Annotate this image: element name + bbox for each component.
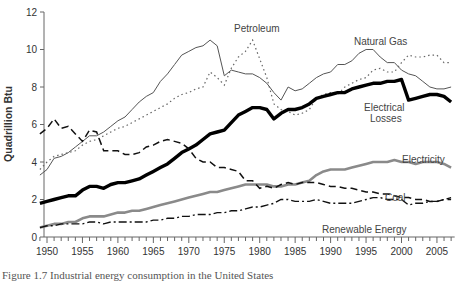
- y-tick-label: 12: [26, 7, 38, 18]
- label-petroleum: Petroleum: [234, 23, 280, 34]
- x-tick-label: 1975: [213, 246, 236, 257]
- label-electrical-losses-2: Losses: [370, 113, 402, 124]
- energy-consumption-chart: 0246810121950195519601965197019751980198…: [0, 0, 468, 283]
- x-tick-label: 1955: [71, 246, 94, 257]
- y-tick-label: 8: [31, 82, 37, 93]
- x-tick-label: 2000: [390, 246, 413, 257]
- y-tick-label: 6: [31, 119, 37, 130]
- x-tick-label: 1985: [284, 246, 307, 257]
- x-tick-label: 1970: [178, 246, 201, 257]
- y-tick-label: 4: [31, 157, 37, 168]
- y-tick-label: 2: [31, 194, 37, 205]
- x-tick-label: 1950: [36, 246, 59, 257]
- x-tick-label: 1960: [107, 246, 130, 257]
- x-tick-label: 1990: [319, 246, 342, 257]
- x-tick-label: 1995: [355, 246, 378, 257]
- x-tick-label: 1980: [249, 246, 272, 257]
- figure-caption: Figure 1.7 Industrial energy consumption…: [2, 269, 273, 281]
- y-tick-label: 10: [26, 44, 38, 55]
- label-renewable-energy: Renewable Energy: [322, 224, 407, 235]
- x-tick-label: 2005: [426, 246, 449, 257]
- label-electrical-losses-1: Electrical: [364, 102, 405, 113]
- y-axis-title: Quadrillion Btu: [2, 86, 14, 162]
- label-natural-gas: Natural Gas: [354, 36, 407, 47]
- y-tick-label: 0: [31, 232, 37, 243]
- label-coal: Coal: [385, 192, 406, 203]
- label-electricity: Electricity: [402, 154, 445, 165]
- x-tick-label: 1965: [142, 246, 165, 257]
